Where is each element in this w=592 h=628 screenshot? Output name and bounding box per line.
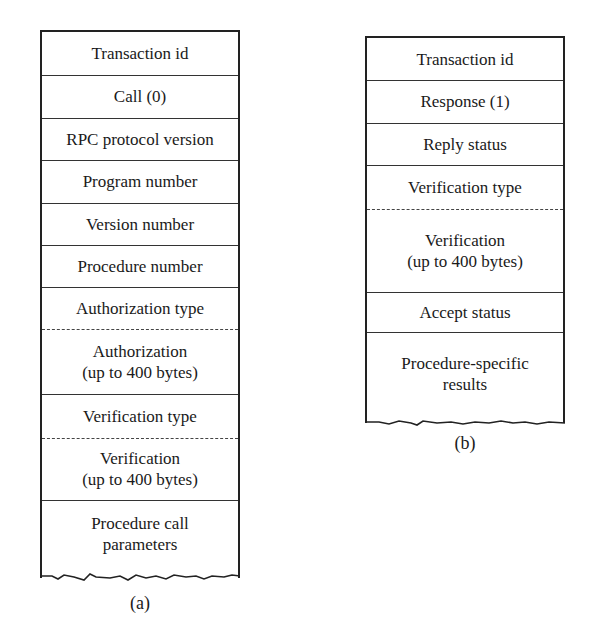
rpc-reply-message-diagram: Transaction id Response (1) Reply status…: [365, 36, 565, 423]
field-sublabel: parameters: [103, 534, 178, 555]
field-label: Transaction id: [91, 43, 188, 64]
field-label: Verification: [425, 230, 505, 251]
field-rpc-protocol-version: RPC protocol version: [42, 118, 238, 160]
field-label: Program number: [83, 171, 198, 192]
field-version-number: Version number: [42, 203, 238, 245]
field-label: Reply status: [423, 134, 507, 155]
caption-b: (b): [445, 433, 485, 454]
field-label: Procedure number: [77, 256, 202, 277]
field-program-number: Program number: [42, 160, 238, 203]
field-response: Response (1): [367, 80, 563, 123]
field-sublabel: (up to 400 bytes): [82, 362, 198, 383]
field-label: Call (0): [114, 86, 166, 107]
field-sublabel: (up to 400 bytes): [82, 469, 198, 490]
field-label: Authorization type: [76, 298, 204, 319]
field-transaction-id: Transaction id: [367, 38, 563, 80]
field-label: RPC protocol version: [66, 129, 213, 150]
caption-a: (a): [120, 593, 160, 614]
field-verification: Verification(up to 400 bytes): [367, 209, 563, 292]
rpc-call-message-diagram: Transaction id Call (0) RPC protocol ver…: [40, 30, 240, 578]
field-label: Verification type: [408, 177, 522, 198]
field-transaction-id: Transaction id: [42, 32, 238, 75]
field-label: Procedure-specific: [401, 353, 528, 374]
field-reply-status: Reply status: [367, 123, 563, 165]
torn-edge-icon: [365, 417, 565, 429]
field-authorization-type: Authorization type: [42, 287, 238, 329]
torn-edge-icon: [40, 570, 240, 584]
field-verification-type: Verification type: [367, 165, 563, 209]
field-label: Response (1): [420, 91, 509, 112]
field-accept-status: Accept status: [367, 292, 563, 332]
field-label: Accept status: [419, 302, 510, 323]
field-label: Transaction id: [416, 49, 513, 70]
field-authorization: Authorization(up to 400 bytes): [42, 329, 238, 394]
field-call: Call (0): [42, 75, 238, 118]
field-sublabel: results: [443, 374, 487, 395]
field-label: Procedure call: [91, 513, 189, 534]
field-procedure-specific-results: Procedure-specificresults: [367, 332, 563, 416]
field-procedure-call-parameters: Procedure callparameters: [42, 500, 238, 568]
field-procedure-number: Procedure number: [42, 245, 238, 287]
field-label: Verification type: [83, 406, 197, 427]
field-label: Authorization: [93, 341, 187, 362]
field-label: Version number: [86, 214, 194, 235]
field-sublabel: (up to 400 bytes): [407, 251, 523, 272]
field-label: Verification: [100, 448, 180, 469]
field-verification-type: Verification type: [42, 394, 238, 438]
field-verification: Verification(up to 400 bytes): [42, 438, 238, 500]
